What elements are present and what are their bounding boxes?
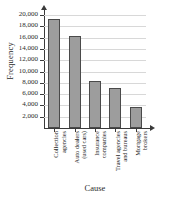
x-axis-title: Cause (44, 183, 146, 193)
category-label-line: Auto dealers (73, 131, 80, 179)
bar-chart: Frequency 2,0004,0006,0008,00010,00012,0… (0, 0, 170, 199)
y-tick-label-wrap: 16,000 (0, 34, 38, 42)
y-axis-arrow-icon (41, 5, 47, 10)
y-tick-label-wrap: 8,000 (0, 79, 38, 87)
bar (69, 36, 81, 128)
y-tick-label-wrap: 18,000 (0, 22, 38, 30)
category-label: Travel agenciesand bureaus (107, 133, 123, 181)
category-label: Auto dealers(used cars) (67, 133, 83, 181)
x-axis-arrow-icon (150, 125, 155, 131)
y-tick-label: 20,000 (0, 11, 38, 18)
category-label: Collectionagencies (46, 133, 62, 181)
y-tick-label: 18,000 (0, 22, 38, 29)
y-tick-label-wrap: 12,000 (0, 56, 38, 64)
y-tick-label-wrap: 4,000 (0, 101, 38, 109)
category-label-line: Collection (52, 131, 59, 179)
y-tick-label-wrap: 2,000 (0, 113, 38, 121)
bar (109, 88, 121, 128)
bar (89, 81, 101, 128)
bar (48, 19, 60, 128)
category-label: Mortgagebrokers (128, 133, 144, 181)
y-tick-label: 4,000 (0, 101, 38, 108)
plot-area (44, 15, 146, 128)
y-tick-label: 6,000 (0, 90, 38, 97)
y-tick-label: 12,000 (0, 56, 38, 63)
category-label: Insurancecompanies (87, 133, 103, 181)
y-tick-label: 8,000 (0, 79, 38, 86)
y-tick-label: 10,000 (0, 68, 38, 75)
y-tick-label-wrap: 14,000 (0, 45, 38, 53)
y-tick-label-wrap: 20,000 (0, 11, 38, 19)
category-label-line: Travel agencies (114, 131, 121, 179)
y-tick-label-wrap: 6,000 (0, 90, 38, 98)
y-tick-label: 14,000 (0, 45, 38, 52)
bar (130, 107, 142, 128)
y-tick-label: 16,000 (0, 34, 38, 41)
gridline (44, 15, 146, 16)
category-label-line: brokers (141, 131, 148, 179)
y-tick-label-wrap: 10,000 (0, 68, 38, 76)
y-tick-label: 2,000 (0, 113, 38, 120)
